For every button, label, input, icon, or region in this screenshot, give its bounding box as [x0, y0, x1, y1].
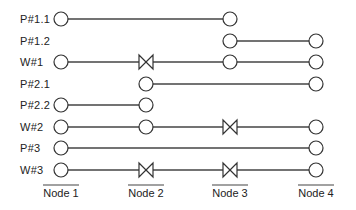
node-column-1: Node 1 [43, 185, 79, 199]
node-diagram: P#1.1P#1.2W#1P#2.1P#2.2W#2P#3W#3 Node 1N… [0, 0, 356, 210]
node-circle-icon [309, 34, 323, 48]
node-label: Node 3 [212, 187, 247, 199]
node-circle-icon [54, 12, 68, 26]
node-circle-icon [223, 34, 237, 48]
node-label: Node 1 [43, 187, 78, 199]
row-label: W#1 [20, 56, 44, 68]
valve-icon [223, 120, 237, 134]
node-column-2: Node 2 [128, 185, 164, 199]
node-column-3: Node 3 [212, 185, 248, 199]
row-label: W#2 [20, 121, 44, 133]
diagram-row: P#2.2 [20, 98, 153, 112]
rows-layer: P#1.1P#1.2W#1P#2.1P#2.2W#2P#3W#3 [20, 12, 323, 177]
node-circle-icon [139, 77, 153, 91]
node-label: Node 2 [128, 187, 163, 199]
node-circle-icon [309, 163, 323, 177]
node-circle-icon [223, 12, 237, 26]
diagram-row: P#3 [20, 141, 323, 155]
diagram-row: W#1 [20, 55, 323, 69]
row-label: P#1.1 [20, 13, 50, 25]
node-circle-icon [54, 141, 68, 155]
valve-icon [139, 163, 153, 177]
row-label: P#1.2 [20, 35, 50, 47]
node-circle-icon [309, 120, 323, 134]
node-circle-icon [54, 98, 68, 112]
node-label: Node 4 [298, 187, 333, 199]
valve-icon [223, 163, 237, 177]
node-circle-icon [139, 98, 153, 112]
node-circle-icon [54, 163, 68, 177]
row-label: W#3 [20, 164, 44, 176]
node-column-4: Node 4 [298, 185, 334, 199]
diagram-row: P#1.1 [20, 12, 237, 26]
node-circle-icon [309, 77, 323, 91]
row-label: P#2.1 [20, 78, 50, 90]
row-label: P#3 [20, 142, 40, 154]
node-circle-icon [139, 120, 153, 134]
node-circle-icon [309, 141, 323, 155]
node-circle-icon [54, 55, 68, 69]
node-circle-icon [309, 55, 323, 69]
diagram-row: W#2 [20, 120, 323, 134]
node-columns-layer: Node 1Node 2Node 3Node 4 [43, 185, 334, 199]
node-circle-icon [223, 55, 237, 69]
diagram-row: W#3 [20, 163, 323, 177]
diagram-row: P#1.2 [20, 34, 323, 48]
row-label: P#2.2 [20, 99, 50, 111]
valve-icon [139, 55, 153, 69]
diagram-row: P#2.1 [20, 77, 323, 91]
node-circle-icon [54, 120, 68, 134]
